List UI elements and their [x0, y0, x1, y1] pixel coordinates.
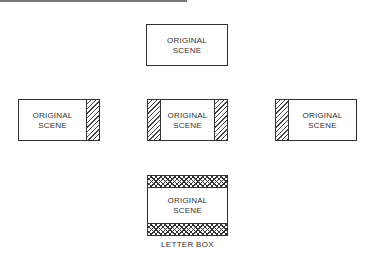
box-label-line1: ORIGINAL [289, 111, 356, 121]
top-rule-line [0, 0, 187, 2]
letterbox-caption: LETTER BOX [147, 240, 228, 249]
box-label: ORIGINAL SCENE [148, 111, 227, 131]
box-label-line2: SCENE [148, 206, 227, 216]
left-hatch-mask [276, 100, 289, 140]
box-label-line2: SCENE [147, 46, 227, 56]
original-scene-box-center: ORIGINAL SCENE [147, 99, 228, 141]
box-label: ORIGINAL SCENE [289, 111, 356, 131]
box-label: ORIGINAL SCENE [148, 196, 227, 216]
original-scene-box-left: ORIGINAL SCENE [18, 99, 100, 141]
box-label-line2: SCENE [148, 121, 227, 131]
original-scene-box-letterbox: ORIGINAL SCENE [147, 175, 228, 236]
box-label-line2: SCENE [289, 121, 356, 131]
top-crosshatch-bar [148, 176, 227, 188]
box-label: ORIGINAL SCENE [147, 36, 227, 56]
box-label-line1: ORIGINAL [147, 36, 227, 46]
box-label-line1: ORIGINAL [148, 111, 227, 121]
box-label-line1: ORIGINAL [148, 196, 227, 206]
bottom-crosshatch-bar [148, 223, 227, 235]
box-label-line2: SCENE [19, 121, 86, 131]
box-label-line1: ORIGINAL [19, 111, 86, 121]
right-hatch-mask [86, 100, 99, 140]
original-scene-box-top: ORIGINAL SCENE [146, 24, 228, 66]
box-label: ORIGINAL SCENE [19, 111, 86, 131]
original-scene-box-right: ORIGINAL SCENE [275, 99, 357, 141]
